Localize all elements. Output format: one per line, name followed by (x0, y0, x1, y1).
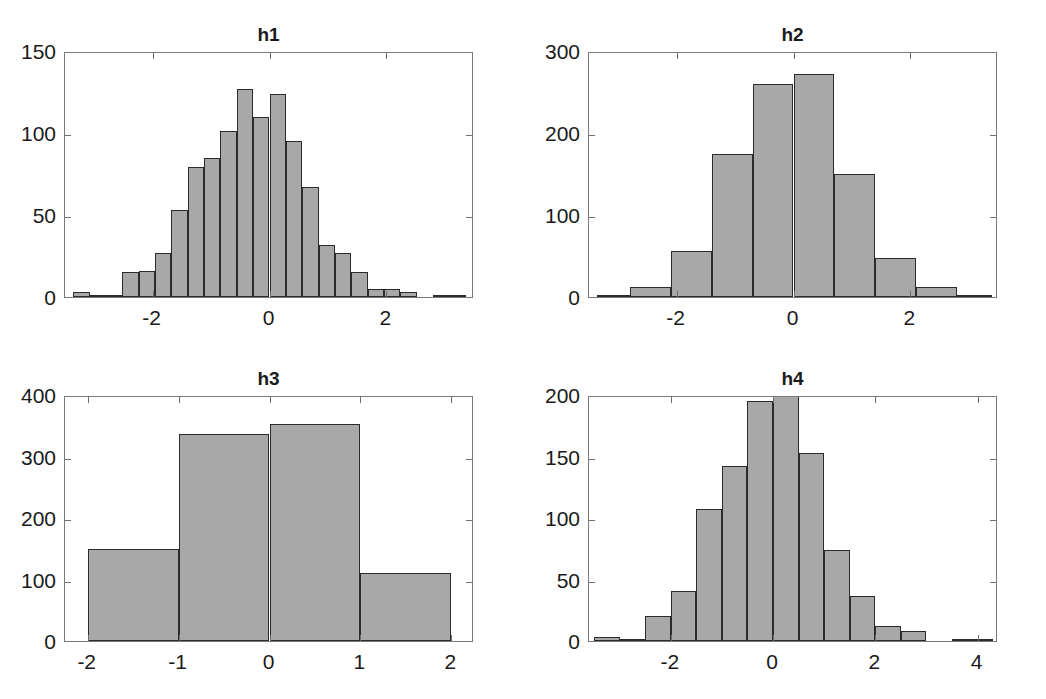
x-tick-label: 2 (868, 650, 880, 674)
x-tick-mark (978, 635, 979, 641)
histogram-bar (773, 397, 799, 641)
histogram-bar (901, 631, 927, 641)
subplot-h4: h4050100150200-2024 (0, 0, 1046, 699)
histogram-bar (696, 509, 722, 641)
x-tick-label: 0 (766, 650, 778, 674)
x-tick-label: -2 (660, 650, 679, 674)
histogram-bar (722, 466, 748, 641)
plot-title-h4: h4 (588, 368, 997, 390)
histogram-bar (747, 401, 773, 641)
histogram-bar (594, 637, 620, 641)
histogram-bar (824, 550, 850, 641)
y-tick-mark (589, 582, 595, 583)
x-tick-mark-top (671, 397, 672, 403)
y-tick-mark (589, 520, 595, 521)
histogram-bar (799, 453, 825, 641)
y-tick-mark-right (990, 582, 996, 583)
histogram-bar (978, 639, 993, 642)
histogram-bar (875, 626, 901, 641)
y-tick-label: 150 (522, 446, 580, 470)
x-tick-label: 4 (971, 650, 983, 674)
x-tick-mark (671, 635, 672, 641)
histogram-bar (645, 616, 671, 641)
y-tick-mark-right (990, 520, 996, 521)
histogram-bar (671, 591, 697, 641)
histogram-bar (952, 639, 978, 642)
bars-layer-h4 (589, 397, 996, 641)
histogram-bar (850, 596, 876, 642)
x-tick-mark-top (978, 397, 979, 403)
histogram-bar (620, 639, 646, 642)
y-tick-mark (589, 459, 595, 460)
x-tick-mark (875, 635, 876, 641)
x-tick-mark (773, 635, 774, 641)
y-tick-mark-right (990, 459, 996, 460)
y-tick-label: 100 (522, 507, 580, 531)
y-tick-label: 50 (522, 569, 580, 593)
x-tick-mark-top (875, 397, 876, 403)
figure-canvas: h1050100150-202h20100200300-202h30100200… (0, 0, 1046, 699)
axes-frame-h4 (588, 396, 997, 642)
x-tick-mark-top (773, 397, 774, 403)
y-tick-label: 0 (522, 630, 580, 654)
y-tick-label: 200 (522, 384, 580, 408)
